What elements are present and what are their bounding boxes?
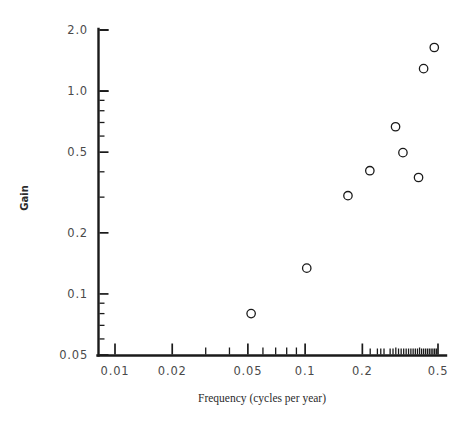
y-tick-label: 2.0	[67, 23, 88, 37]
x-axis-ticks	[115, 344, 438, 355]
x-axis-tick-labels: 0.010.020.050.10.20.5	[101, 364, 449, 378]
y-tick-label: 0.2	[67, 226, 88, 240]
y-tick-label: 0.05	[59, 348, 88, 362]
y-axis-ticks	[100, 30, 109, 355]
y-tick-label: 0.1	[67, 287, 88, 301]
axes-lines	[98, 29, 447, 356]
y-tick-label: 1.0	[67, 84, 88, 98]
data-point	[430, 43, 438, 51]
figure-panel: 0.050.10.20.51.02.0 0.010.020.050.10.20.…	[0, 0, 465, 429]
data-point	[303, 264, 311, 272]
x-tick-label: 0.1	[295, 364, 316, 378]
y-axis-title: Gain	[19, 185, 30, 211]
x-tick-label: 0.05	[233, 364, 262, 378]
data-point	[414, 173, 422, 181]
data-point	[399, 148, 407, 156]
data-point	[419, 64, 427, 72]
y-tick-label: 0.5	[67, 145, 88, 159]
data-point	[391, 123, 399, 131]
x-tick-label: 0.5	[428, 364, 449, 378]
x-tick-label: 0.01	[101, 364, 130, 378]
data-point-group	[247, 43, 439, 318]
x-tick-label: 0.2	[352, 364, 373, 378]
x-tick-label: 0.02	[158, 364, 187, 378]
data-point	[366, 167, 374, 175]
y-axis-tick-labels: 0.050.10.20.51.02.0	[59, 23, 88, 362]
x-axis-title: Frequency (cycles per year)	[198, 392, 326, 405]
data-point	[344, 191, 352, 199]
scatter-plot: 0.050.10.20.51.02.0 0.010.020.050.10.20.…	[0, 0, 465, 429]
data-point	[247, 309, 255, 317]
